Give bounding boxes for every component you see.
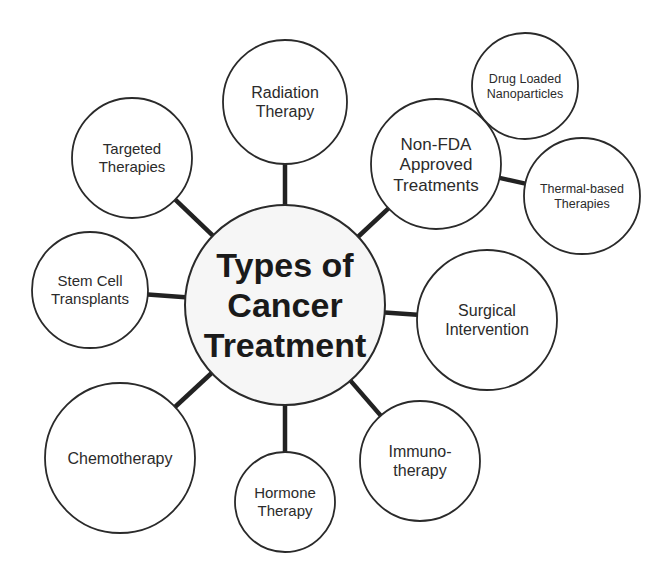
node-circle: [472, 33, 578, 139]
node-center: Types ofCancerTreatment: [185, 205, 385, 405]
connector-stem-cell-transplants: [148, 294, 185, 297]
connector-non-fda-approved-treatments: [358, 208, 388, 236]
connector-surgical-intervention: [385, 312, 417, 314]
node-label-line: Cancer: [227, 286, 342, 324]
node-label-line: Thermal-based: [540, 182, 624, 196]
node-circle: [223, 40, 347, 164]
node-label-line: Immuno-: [388, 443, 451, 460]
node-non-fda-approved-treatments: Non-FDAApprovedTreatments: [371, 99, 501, 229]
node-label-line: Therapy: [257, 502, 313, 519]
cancer-treatment-diagram: RadiationTherapyNon-FDAApprovedTreatment…: [0, 0, 666, 570]
node-immunotherapy: Immuno-therapy: [360, 401, 480, 521]
node-label-line: Hormone: [254, 484, 316, 501]
node-circle: [417, 250, 557, 390]
node-label-line: Targeted: [103, 140, 161, 157]
node-drug-loaded-nanoparticles: Drug LoadedNanoparticles: [472, 33, 578, 139]
node-label-line: therapy: [393, 462, 446, 479]
node-label-line: Types of: [216, 246, 354, 284]
node-hormone-therapy: HormoneTherapy: [235, 452, 335, 552]
node-label-line: Drug Loaded: [489, 72, 561, 86]
node-label-line: Approved: [400, 155, 473, 174]
connector-immunotherapy: [350, 381, 380, 416]
node-label-line: Surgical: [458, 302, 516, 319]
node-circle: [360, 401, 480, 521]
node-label-line: Nanoparticles: [487, 87, 563, 101]
node-label-line: Intervention: [445, 321, 529, 338]
node-label-line: Radiation: [251, 84, 319, 101]
node-chemotherapy: Chemotherapy: [45, 383, 195, 533]
node-label-line: Therapies: [99, 158, 166, 175]
connector-thermal-based-therapies: [499, 178, 525, 184]
node-label-line: Transplants: [51, 290, 129, 307]
node-targeted-therapies: TargetedTherapies: [72, 98, 192, 218]
node-label-line: Therapies: [554, 197, 610, 211]
node-label-line: Therapy: [256, 103, 315, 120]
node-label-line: Treatments: [393, 176, 478, 195]
node-label-line: Stem Cell: [57, 272, 122, 289]
center-node: Types ofCancerTreatment: [185, 205, 385, 405]
node-surgical-intervention: SurgicalIntervention: [417, 250, 557, 390]
node-circle: [524, 138, 640, 254]
connector-targeted-therapies: [175, 200, 213, 236]
node-thermal-based-therapies: Thermal-basedTherapies: [524, 138, 640, 254]
node-label-line: Non-FDA: [401, 135, 473, 154]
node-stem-cell-transplants: Stem CellTransplants: [32, 232, 148, 348]
node-label-line: Chemotherapy: [68, 450, 173, 467]
node-radiation-therapy: RadiationTherapy: [223, 40, 347, 164]
connector-chemotherapy: [175, 373, 212, 407]
node-label-line: Treatment: [204, 326, 367, 364]
